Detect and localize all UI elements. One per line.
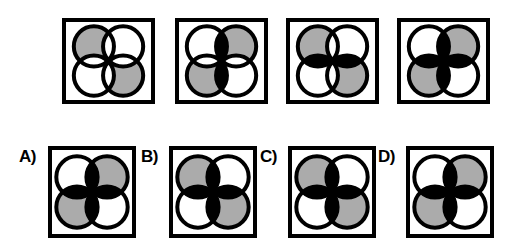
- option-a[interactable]: [48, 146, 136, 238]
- sequence-figure-2: [175, 18, 268, 104]
- option-b-label: B): [141, 148, 158, 165]
- option-d[interactable]: [406, 146, 494, 238]
- option-b[interactable]: [169, 146, 257, 238]
- option-a-label: A): [19, 148, 36, 165]
- option-c-label: C): [260, 148, 277, 165]
- option-d-label: D): [378, 148, 395, 165]
- option-c[interactable]: [288, 146, 376, 238]
- sequence-figure-3: [286, 18, 379, 104]
- sequence-figure-4: [397, 18, 490, 104]
- puzzle-root: A)B)C)D): [0, 0, 508, 252]
- sequence-figure-1: [62, 18, 155, 104]
